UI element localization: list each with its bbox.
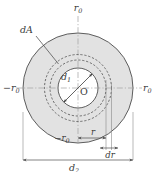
label-area-element: dA [20, 24, 33, 35]
label-outer-diameter: d2 [69, 162, 79, 172]
label-radius-increment: dr [105, 150, 116, 160]
label-right-radius: r0 [143, 82, 152, 95]
figure-root: r0 −r0 r0 −r0 dA d1 O r dr d2 [0, 0, 163, 172]
label-left-radius: −r0 [3, 82, 20, 95]
label-top-radius: r0 [74, 2, 83, 15]
annulus-diagram: r0 −r0 r0 −r0 dA d1 O r dr d2 [0, 0, 163, 172]
label-center-origin: O [80, 86, 88, 97]
